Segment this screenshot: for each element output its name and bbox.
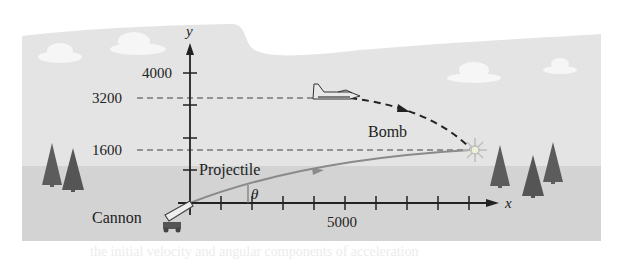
bleed-through-text: the initial velocity and angular compone…: [90, 244, 419, 259]
y-tick-label-4000: 4000: [142, 65, 172, 81]
cannon-label: Cannon: [92, 209, 142, 226]
angle-theta-label: θ: [251, 186, 259, 202]
y-axis-label: y: [184, 23, 193, 39]
y-reference-label-3200: 3200: [92, 90, 122, 106]
x-tick-label-5000: 5000: [327, 214, 357, 230]
bomb-label: Bomb: [368, 123, 407, 140]
x-axis-label: x: [504, 195, 512, 211]
y-reference-label-1600: 1600: [92, 142, 122, 158]
projectile-diagram: y x 4000 3200 1600 5000 Projectile Bomb …: [0, 0, 619, 262]
projectile-label: Projectile: [199, 161, 260, 179]
